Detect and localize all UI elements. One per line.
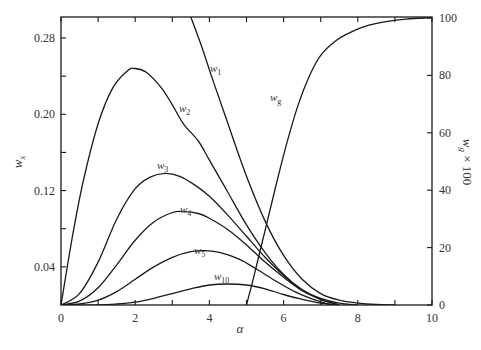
- svg-text:wg × 100: wg × 100: [458, 139, 475, 186]
- y-left-tick-label: 0.12: [34, 184, 55, 198]
- data-curves: [61, 17, 432, 305]
- curve-w3: [61, 173, 339, 305]
- y-right-tick-label: 80: [439, 68, 451, 82]
- y-left-axis-label: wx: [10, 156, 27, 169]
- label-w5: w5: [194, 244, 205, 259]
- y-right-tick-label: 0: [439, 298, 445, 312]
- y-right-tick-label: 60: [439, 126, 451, 140]
- chart: 02468100.040.120.200.28020406080100 w1w2…: [0, 0, 481, 350]
- x-tick-label: 0: [58, 311, 64, 325]
- label-wg: wg: [270, 91, 281, 106]
- x-axis-label: α: [237, 321, 245, 336]
- x-tick-label: 6: [281, 311, 287, 325]
- y-right-tick-label: 20: [439, 241, 451, 255]
- y-left-tick-label: 0.28: [34, 31, 55, 45]
- y-right-axis-label: wg × 100: [458, 139, 475, 186]
- plot-frame: [61, 17, 432, 305]
- label-w3: w3: [157, 159, 168, 174]
- x-tick-label: 8: [355, 311, 361, 325]
- axis-ticks: [61, 17, 432, 305]
- y-right-tick-label: 40: [439, 183, 451, 197]
- axis-tick-labels: 02468100.040.120.200.28020406080100: [34, 11, 457, 325]
- label-w2: w2: [179, 102, 190, 117]
- y-left-tick-label: 0.04: [34, 260, 55, 274]
- y-right-tick-label: 100: [439, 11, 457, 25]
- svg-text:wx: wx: [10, 156, 27, 169]
- label-w4: w4: [180, 203, 191, 218]
- curve-w4: [61, 211, 339, 305]
- curve-labels: w1w2w3w4w5w10wg: [157, 62, 281, 285]
- curve-w2: [61, 68, 358, 305]
- x-tick-label: 10: [426, 311, 438, 325]
- curve-w1: [191, 17, 395, 305]
- x-tick-label: 2: [132, 311, 138, 325]
- curve-wg: [247, 18, 433, 305]
- y-left-tick-label: 0.20: [34, 107, 55, 121]
- x-tick-label: 4: [206, 311, 212, 325]
- label-w10: w10: [214, 270, 229, 285]
